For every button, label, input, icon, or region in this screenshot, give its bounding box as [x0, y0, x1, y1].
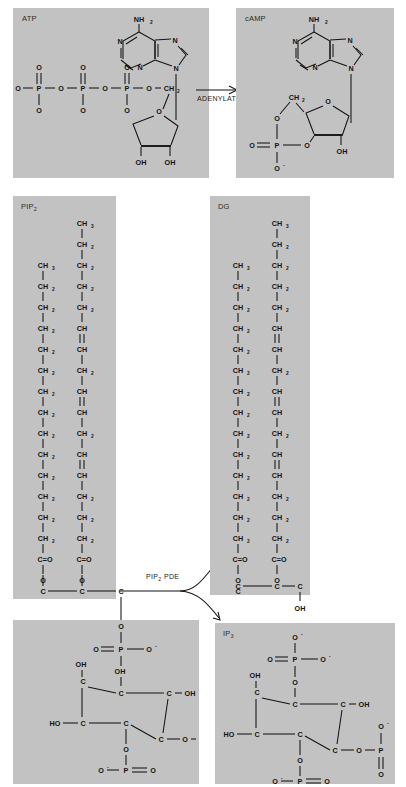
atom-oh-inos-2: OH [76, 660, 87, 669]
svg-text:3: 3 [286, 224, 289, 229]
atom-ch-alkene: CH [77, 387, 87, 396]
atom-p-alpha: P [125, 84, 130, 93]
svg-text:3: 3 [91, 224, 94, 229]
charge: - [387, 721, 389, 726]
atom-oh-inos-2: OH [250, 671, 261, 680]
atom-inos-c2: C [254, 688, 259, 697]
svg-text:2: 2 [52, 476, 55, 481]
atom-o-double-p3: O [150, 766, 156, 775]
svg-text:CH: CH [38, 261, 48, 270]
atom-oh-2prime: OH [136, 158, 147, 167]
atom-n-2: N [137, 63, 142, 72]
svg-text:CH: CH [233, 492, 243, 501]
svg-text:2: 2 [286, 371, 289, 376]
atom-o-ring: O [325, 97, 331, 106]
atom-ch2-5prime: CH [289, 93, 299, 102]
svg-text:2: 2 [91, 287, 94, 292]
svg-text:2: 2 [286, 266, 289, 271]
svg-text:3: 3 [247, 266, 250, 271]
svg-text:CH: CH [233, 408, 243, 417]
svg-text:2: 2 [91, 434, 94, 439]
svg-text:2: 2 [52, 497, 55, 502]
svg-text:2: 2 [286, 287, 289, 292]
atom-o-minus-p2-top: O [378, 722, 384, 731]
svg-text:2: 2 [247, 539, 250, 544]
atom-p-2: P [379, 746, 384, 755]
svg-text:CH: CH [38, 366, 48, 375]
svg-text:2: 2 [247, 476, 250, 481]
svg-text:CH: CH [38, 492, 48, 501]
atom-carbonyl-right: C=O [272, 555, 287, 564]
svg-text:2: 2 [52, 413, 55, 418]
atom-p-1: P [293, 655, 298, 664]
atom-inos-c4: C [297, 730, 302, 739]
svg-text:CH: CH [77, 303, 87, 312]
svg-text:CH: CH [38, 324, 48, 333]
svg-text:CH: CH [233, 345, 243, 354]
svg-text:CH: CH [233, 450, 243, 459]
svg-text:2: 2 [247, 497, 250, 502]
svg-text:2: 2 [247, 350, 250, 355]
atom-inos-c3: C [80, 719, 85, 728]
atom-o-minus-p1: O [146, 645, 152, 654]
charge: - [155, 644, 157, 649]
atom-o-left: O [15, 84, 21, 93]
svg-text:CH: CH [233, 324, 243, 333]
svg-text:2: 2 [52, 371, 55, 376]
atom-o-ring: O [156, 107, 162, 116]
atom-ch-alkene: CH [272, 324, 282, 333]
svg-text:CH: CH [233, 513, 243, 522]
molecule-atp: NH 2 N N N N O P O O O P O O O P O O O C… [13, 8, 209, 178]
atom-inos-c1: C [118, 689, 123, 698]
atom-n-1: N [292, 37, 297, 46]
charge: - [329, 654, 331, 659]
svg-text:CH: CH [233, 366, 243, 375]
svg-text:CH: CH [272, 261, 282, 270]
atom-o-g-bot: O [36, 106, 42, 115]
svg-text:2: 2 [247, 413, 250, 418]
svg-text:CH: CH [272, 492, 282, 501]
atom-ch-alkene: CH [77, 324, 87, 333]
svg-text:2: 2 [247, 434, 250, 439]
svg-text:CH: CH [233, 471, 243, 480]
atom-oh-inos-6: OH [359, 700, 370, 709]
svg-text:2: 2 [52, 518, 55, 523]
svg-text:2: 2 [52, 308, 55, 313]
svg-text:CH: CH [38, 429, 48, 438]
svg-text:2: 2 [247, 287, 250, 292]
atom-n-2: N [312, 63, 317, 72]
atom-p-beta: P [81, 84, 86, 93]
atom-o-minus-charge: - [283, 163, 285, 168]
atom-glycerol-c2: C [79, 587, 84, 596]
atom-o-a-bot: O [124, 106, 130, 115]
svg-text:CH: CH [77, 219, 87, 228]
atom-o-bridge-2: O [102, 84, 108, 93]
atom-o-minus: O [274, 164, 280, 173]
molecule-dg-chains: CH3 CH2 CH2 CH2 CH2 CH2 CH2 CH2 CH2 CH2 … [210, 196, 310, 595]
svg-text:2: 2 [52, 329, 55, 334]
atom-ho-inos-3: HO [50, 719, 61, 728]
atom-glycerol-c1: C [40, 587, 45, 596]
svg-text:CH: CH [233, 282, 243, 291]
atom-ch-alkene: CH [77, 450, 87, 459]
charge: - [301, 632, 303, 637]
svg-text:CH: CH [38, 387, 48, 396]
svg-text:3: 3 [52, 266, 55, 271]
svg-text:CH: CH [77, 429, 87, 438]
svg-text:CH: CH [233, 387, 243, 396]
atom-ch-alkene: CH [272, 408, 282, 417]
svg-text:2: 2 [247, 329, 250, 334]
charge: - [281, 776, 283, 781]
atom-inos-c4: C [123, 719, 128, 728]
atom-ch2-5prime: CH [164, 84, 174, 93]
atom-ch-alkene: CH [272, 345, 282, 354]
atom-ch2-5prime-sub: 2 [177, 89, 180, 94]
svg-text:2: 2 [247, 518, 250, 523]
svg-text:2: 2 [91, 266, 94, 271]
svg-text:CH: CH [38, 450, 48, 459]
molecule-pip2-chains: CH3 CH2 CH2 CH2 CH2 CH2 CH2 CH2 CH2 CH2 … [13, 196, 116, 599]
svg-text:2: 2 [52, 350, 55, 355]
atom-o-minus-p3: O [272, 777, 278, 786]
atom-inos-c3: C [254, 730, 259, 739]
atom-n-4: N [173, 64, 178, 73]
